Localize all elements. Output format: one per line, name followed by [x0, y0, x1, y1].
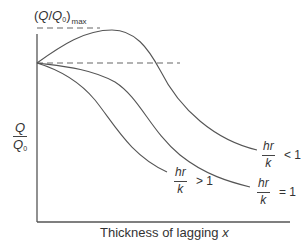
x-label-text: Thickness of lagging — [100, 225, 222, 240]
relation-equal-1: = 1 — [279, 185, 296, 199]
max-subscript: max — [71, 17, 86, 26]
relation-greater-than-1: > 1 — [196, 174, 213, 188]
paren-close: ) — [66, 8, 70, 23]
label-hr-k-less-than-1: hr k — [262, 140, 275, 170]
label-numerator: hr — [262, 140, 275, 153]
y-label-denominator: Q0 — [13, 138, 27, 155]
y-label-numerator: Q — [14, 121, 26, 134]
max-ratio-label: (Q/Q0)max — [34, 8, 87, 26]
q-symbol: Q — [38, 8, 48, 23]
label-denominator: k — [265, 157, 271, 170]
label-numerator: hr — [174, 166, 187, 179]
label-denominator: k — [260, 194, 266, 207]
curve-hr-k-equal-1 — [37, 63, 250, 187]
label-hr-k-greater-than-1: hr k — [174, 166, 187, 196]
curve-hr-k-less-than-1 — [37, 30, 257, 150]
x-axis-label: Thickness of lagging x — [100, 225, 229, 240]
label-numerator: hr — [257, 177, 270, 190]
y-label-denominator-sub: 0 — [23, 145, 27, 152]
x-label-variable: x — [222, 225, 229, 240]
label-denominator: k — [177, 183, 183, 196]
y-label-denominator-base: Q — [13, 137, 23, 152]
y-axis-label: Q Q0 — [13, 121, 27, 155]
q0-symbol: Q — [52, 8, 62, 23]
label-hr-k-equal-1: hr k — [257, 177, 270, 207]
relation-less-than-1: < 1 — [284, 148, 301, 162]
